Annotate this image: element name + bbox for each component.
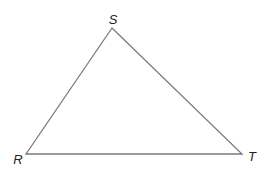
triangle-rst	[26, 28, 242, 154]
vertex-label-s: S	[109, 12, 118, 27]
vertex-label-r: R	[13, 152, 22, 167]
triangle-diagram: S R T	[0, 0, 270, 179]
vertex-label-t: T	[248, 149, 257, 164]
